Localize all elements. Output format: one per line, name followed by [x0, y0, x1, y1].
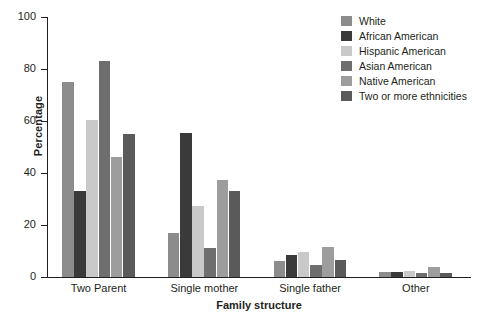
- y-tick-mark: [41, 121, 48, 122]
- y-tick-mark: [41, 17, 48, 18]
- y-tick-label: 60: [2, 114, 36, 126]
- legend-swatch-icon: [341, 76, 352, 86]
- bar: [217, 180, 229, 278]
- legend-item: White: [341, 14, 467, 28]
- bar: [322, 247, 334, 277]
- legend-swatch-icon: [341, 31, 352, 41]
- x-axis-title: Family structure: [47, 299, 471, 311]
- bar: [379, 272, 391, 277]
- bar: [391, 272, 403, 277]
- bar: [99, 61, 111, 277]
- legend-label: Two or more ethnicities: [359, 91, 467, 102]
- bar: [192, 206, 204, 278]
- bar: [229, 191, 241, 277]
- y-tick-label: 80: [2, 62, 36, 74]
- bar: [62, 82, 74, 277]
- y-tick-mark: [41, 69, 48, 70]
- x-tick-label: Single father: [260, 282, 360, 294]
- x-tick-label: Two Parent: [49, 282, 149, 294]
- legend: WhiteAfrican AmericanHispanic AmericanAs…: [341, 14, 467, 104]
- legend-item: Asian American: [341, 59, 467, 73]
- bar: [310, 265, 322, 277]
- legend-item: Hispanic American: [341, 44, 467, 58]
- legend-swatch-icon: [341, 61, 352, 71]
- y-tick-label: 100: [2, 10, 36, 22]
- bar: [180, 133, 192, 277]
- bar: [335, 260, 347, 277]
- legend-label: African American: [359, 31, 438, 42]
- bar: [168, 233, 180, 277]
- legend-swatch-icon: [341, 91, 352, 101]
- bar: [123, 134, 135, 277]
- bar: [440, 273, 452, 277]
- y-tick-label: 40: [2, 166, 36, 178]
- bar: [204, 248, 216, 277]
- bar: [274, 261, 286, 277]
- legend-label: Native American: [359, 76, 435, 87]
- bar: [86, 120, 98, 277]
- bar-chart: Percentage 020406080100 Two ParentSingle…: [0, 0, 501, 321]
- y-tick-mark: [41, 173, 48, 174]
- y-tick-label: 20: [2, 218, 36, 230]
- legend-label: Asian American: [359, 61, 432, 72]
- bar: [416, 273, 428, 277]
- legend-item: Native American: [341, 74, 467, 88]
- x-tick-label: Other: [366, 282, 466, 294]
- bar: [111, 157, 123, 277]
- bar: [298, 252, 310, 277]
- x-tick-label: Single mother: [154, 282, 254, 294]
- bar: [74, 191, 86, 277]
- legend-label: Hispanic American: [359, 46, 446, 57]
- bar: [428, 267, 440, 277]
- y-tick-label: 0: [2, 270, 36, 282]
- legend-label: White: [359, 16, 386, 27]
- bar: [286, 255, 298, 277]
- legend-swatch-icon: [341, 46, 352, 56]
- legend-item: Two or more ethnicities: [341, 89, 467, 103]
- legend-swatch-icon: [341, 16, 352, 26]
- legend-item: African American: [341, 29, 467, 43]
- bar: [404, 271, 416, 278]
- y-tick-mark: [41, 225, 48, 226]
- x-axis-line: [47, 277, 471, 278]
